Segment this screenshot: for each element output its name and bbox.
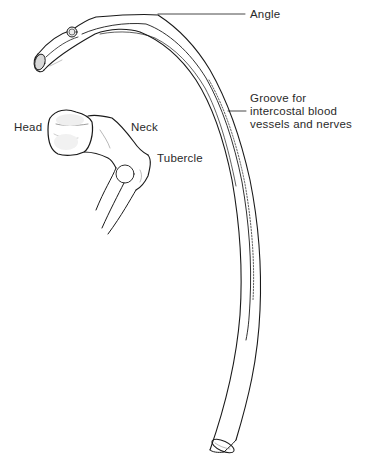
rib-posterior-end: [33, 27, 78, 72]
label-groove-line-1: Groove for: [250, 92, 352, 105]
label-head: Head: [14, 121, 42, 134]
rib-diagram: [0, 0, 367, 459]
label-groove-line-2: intercostal blood: [250, 105, 352, 118]
label-groove: Groove for intercostal blood vessels and…: [250, 92, 352, 131]
label-angle: Angle: [250, 8, 280, 21]
label-groove-line-3: vessels and nerves: [250, 118, 352, 131]
label-tubercle: Tubercle: [157, 152, 203, 165]
label-neck: Neck: [131, 121, 158, 134]
rib-shaft: [38, 15, 261, 456]
